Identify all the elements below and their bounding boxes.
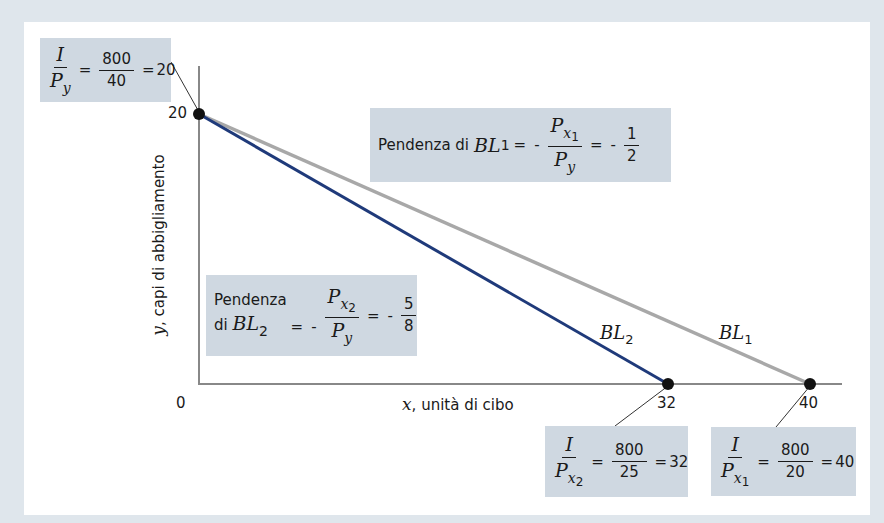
bl1-slope-box: Pendenza di BL1 = - Px1 Py = - 1 2 xyxy=(370,108,671,182)
point-y-intercept xyxy=(193,108,205,120)
point-x40 xyxy=(804,378,816,390)
bl2-slope-box: Pendenza di BL2 = - Px2 Py = - 5 8 xyxy=(206,275,417,356)
x-axis-label: x, unità di cibo xyxy=(402,394,514,414)
bl2-x-intercept-box: I Px2 = 800 25 = 32 xyxy=(545,426,688,497)
bl1-label: BL1 xyxy=(719,322,752,347)
y-intercept-box: I Py = 800 40 = 20 xyxy=(40,38,171,102)
bl1-x-intercept-box: I Px1 = 800 20 = 40 xyxy=(711,427,856,496)
y-axis-label: y, capi di abbigliamento xyxy=(148,154,168,335)
x-tick-origin: 0 xyxy=(176,394,186,412)
x-tick-40: 40 xyxy=(799,394,818,412)
point-x32 xyxy=(662,378,674,390)
bl2-label: BL2 xyxy=(600,322,633,347)
x-tick-32: 32 xyxy=(657,394,676,412)
y-tick-20: 20 xyxy=(168,104,187,122)
